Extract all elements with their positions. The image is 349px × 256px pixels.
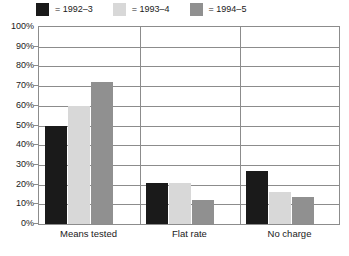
legend-item-1992-3: = 1992–3 [36, 3, 93, 16]
y-tick-label: 70% [0, 81, 34, 90]
y-tick-label: 10% [0, 199, 34, 208]
x-tick-label: Flat rate [139, 228, 240, 239]
legend-item-1994-5: = 1994–5 [190, 3, 247, 16]
x-axis: Means testedFlat rateNo charge [38, 228, 340, 248]
bar [246, 171, 268, 224]
y-axis: 100%90%80%70%60%50%40%30%20%10%0% [0, 0, 36, 256]
y-tick-label: 30% [0, 160, 34, 169]
bar-groups [39, 27, 339, 224]
bar [91, 82, 113, 224]
y-tick-label: 100% [0, 22, 34, 31]
x-tick-label: Means tested [38, 228, 139, 239]
y-tick-label: 50% [0, 121, 34, 130]
legend-swatch-1992-3 [36, 3, 49, 16]
bar-group [39, 27, 140, 224]
x-tick-label: No charge [239, 228, 340, 239]
bar [68, 106, 90, 224]
legend-item-1993-4: = 1993–4 [113, 3, 170, 16]
y-tick-label: 80% [0, 61, 34, 70]
bar [192, 200, 214, 224]
legend-label-1992-3: = 1992–3 [55, 5, 93, 14]
legend-swatch-1993-4 [113, 3, 126, 16]
bar [146, 183, 168, 224]
plot-area [38, 26, 340, 225]
legend-swatch-1994-5 [190, 3, 203, 16]
y-tick-label: 40% [0, 140, 34, 149]
bar [45, 126, 67, 225]
bar-group [240, 27, 341, 224]
y-tick-label: 90% [0, 42, 34, 51]
chart-legend: = 1992–3 = 1993–4 = 1994–5 [36, 1, 266, 17]
bar [292, 197, 314, 224]
y-tick-label: 0% [0, 219, 34, 228]
y-tick-label: 20% [0, 180, 34, 189]
bar-group [140, 27, 241, 224]
legend-label-1993-4: = 1993–4 [132, 5, 170, 14]
y-tick-label: 60% [0, 101, 34, 110]
bar-chart: = 1992–3 = 1993–4 = 1994–5 100%90%80%70%… [0, 0, 349, 256]
bar [269, 192, 291, 224]
bar [169, 183, 191, 224]
legend-label-1994-5: = 1994–5 [209, 5, 247, 14]
